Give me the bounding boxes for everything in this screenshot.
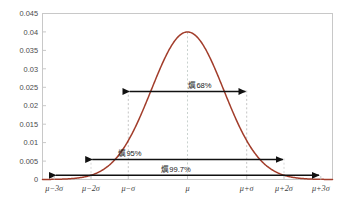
- x-tick-label: μ+σ: [239, 184, 255, 193]
- y-tick-label: 0: [34, 175, 38, 184]
- y-tick-label: 0.035: [20, 46, 39, 55]
- chart-canvas: 0 0.005 0.01 0.015 0.02 0.025: [0, 0, 343, 208]
- normal-distribution-figure: 0 0.005 0.01 0.015 0.02 0.025: [0, 0, 343, 208]
- x-tick-label: μ: [184, 184, 189, 193]
- y-tick-label: 0.045: [20, 9, 39, 18]
- x-tick-label: μ−3σ: [44, 184, 64, 193]
- y-tick-label: 0.04: [24, 28, 38, 37]
- x-tick-label: μ+3σ: [311, 184, 331, 193]
- y-tick-label: 0.03: [24, 65, 38, 74]
- y-tick-label: 0.025: [20, 83, 39, 92]
- y-tick-label: 0.005: [20, 157, 39, 166]
- x-tick-label: μ−2σ: [81, 184, 101, 193]
- y-tick-label: 0.01: [24, 138, 38, 147]
- y-tick-label: 0.02: [24, 101, 38, 110]
- x-tick-label: μ+2σ: [274, 184, 294, 193]
- annotation-label-68-percent: 爄68%: [188, 81, 211, 90]
- y-tick-label: 0.015: [20, 120, 39, 129]
- annotation-label-997-percent: 爄99.7%: [161, 165, 191, 174]
- x-tick-label: μ−σ: [120, 184, 136, 193]
- annotation-label-95-percent: 爄95%: [118, 149, 141, 158]
